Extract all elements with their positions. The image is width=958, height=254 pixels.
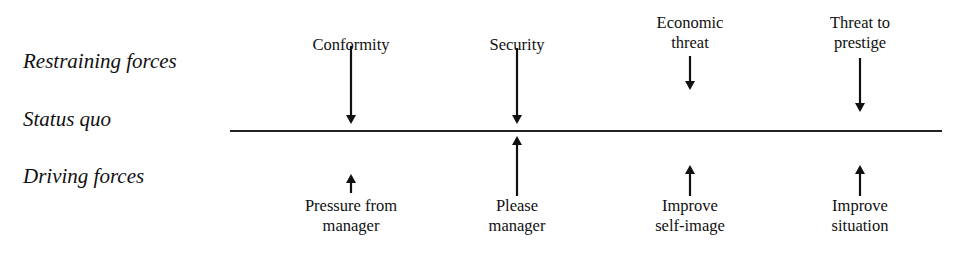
down-arrow-icon [346,46,356,124]
down-arrow-icon [685,56,695,90]
up-arrow-icon [685,165,695,196]
up-arrow-icon [346,174,356,193]
up-arrow-icon [512,136,522,196]
up-arrow-icon [855,165,865,196]
down-arrow-icon [855,58,865,112]
force-arrows [0,0,958,254]
down-arrow-icon [512,48,522,124]
